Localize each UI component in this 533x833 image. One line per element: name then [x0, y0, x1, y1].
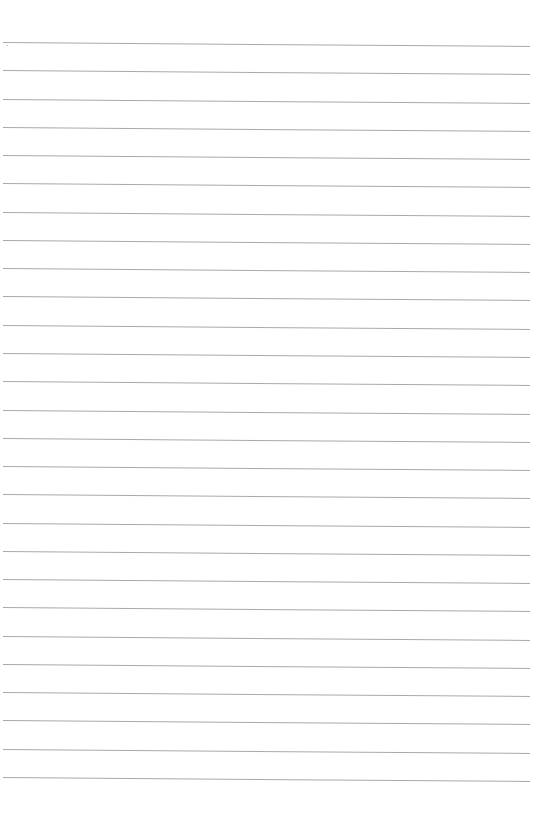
- ruled-line: [3, 381, 530, 386]
- ruled-line: [3, 466, 530, 471]
- ruled-line: [3, 127, 530, 132]
- ruled-line: [3, 325, 530, 330]
- ruled-line: [3, 720, 530, 725]
- ruled-line: [3, 438, 530, 443]
- ruled-line: [3, 607, 530, 612]
- ruled-line: [3, 777, 530, 782]
- ruled-line: [3, 551, 530, 556]
- lined-paper-page: [0, 0, 533, 833]
- ruled-line: [3, 183, 530, 188]
- ruled-line: [3, 99, 530, 104]
- ruled-line: [3, 410, 530, 415]
- ruled-line: [3, 212, 530, 217]
- paper-speck: [7, 45, 8, 46]
- ruled-line: [3, 692, 530, 697]
- ruled-line: [3, 155, 530, 160]
- ruled-line: [3, 296, 530, 301]
- ruled-line: [3, 353, 530, 358]
- ruled-line: [3, 664, 530, 669]
- ruled-line: [3, 70, 530, 75]
- ruled-line: [3, 579, 530, 584]
- ruled-line: [3, 523, 530, 528]
- ruled-line: [3, 749, 530, 754]
- ruled-line: [3, 636, 530, 641]
- ruled-line: [3, 240, 530, 245]
- ruled-line: [3, 42, 530, 47]
- ruled-line: [3, 268, 530, 273]
- ruled-line: [3, 494, 530, 499]
